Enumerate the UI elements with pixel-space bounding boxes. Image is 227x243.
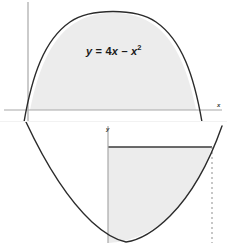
top-equation-label: y = 4x – x2 — [86, 45, 142, 57]
bottom-y-axis-letter: y — [106, 126, 109, 132]
top-x-axis-letter: x — [217, 102, 220, 108]
bottom-parabola-panel: y = 6x2 — [0, 122, 227, 243]
top-eq-operator: = 4 — [92, 45, 111, 57]
top-eq-minus: – — [118, 45, 131, 57]
top-eq-exponent: 2 — [137, 43, 141, 52]
math-figure: y = 4x – x2 x y = 6x2 y — [0, 0, 227, 243]
top-parabola-panel: y = 4x – x2 x — [0, 0, 227, 122]
top-panel-svg — [0, 0, 227, 122]
top-shaded-area — [30, 13, 196, 110]
bottom-panel-svg — [0, 122, 227, 243]
